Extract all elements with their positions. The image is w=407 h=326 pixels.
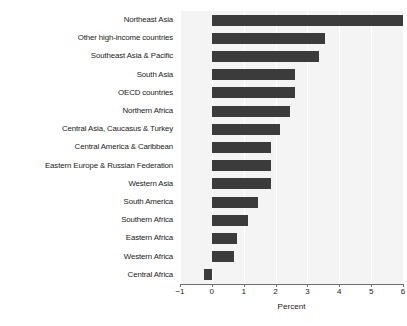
x-axis-tick-label: −1 (170, 288, 190, 296)
bar (212, 33, 325, 44)
x-axis-tick-label: 2 (266, 288, 286, 296)
bar-row (180, 47, 403, 65)
category-label: South America (5, 193, 177, 211)
bar (212, 87, 295, 98)
bar (212, 215, 249, 226)
category-label: Central Asia, Caucasus & Turkey (5, 120, 177, 138)
category-label: Western Africa (5, 248, 177, 266)
bar-row (180, 157, 403, 175)
bar-row (180, 29, 403, 47)
x-axis-tick-label: 1 (234, 288, 254, 296)
x-axis-tick-label: 5 (361, 288, 381, 296)
bar-row (180, 193, 403, 211)
x-axis-title: Percent (180, 303, 403, 311)
category-label: Southeast Asia & Pacific (5, 47, 177, 65)
bar-row (180, 120, 403, 138)
category-label: Northeast Asia (5, 11, 177, 29)
bar-row (180, 266, 403, 284)
x-axis-line (180, 284, 403, 285)
category-label: Eastern Africa (5, 229, 177, 247)
bar (204, 269, 212, 280)
bar-row (180, 229, 403, 247)
bar (212, 160, 271, 171)
bars-container (180, 11, 403, 284)
category-axis-labels: Northeast AsiaOther high-income countrie… (0, 11, 177, 284)
category-label: Other high-income countries (5, 29, 177, 47)
bar-chart: Northeast AsiaOther high-income countrie… (0, 0, 407, 326)
bar (212, 233, 237, 244)
plot-area (180, 11, 403, 284)
bar (212, 142, 271, 153)
bar-row (180, 138, 403, 156)
bar (212, 251, 234, 262)
bar (212, 69, 295, 80)
x-axis-tick-label: 3 (297, 288, 317, 296)
bar (212, 15, 403, 26)
x-axis-tick-label: 4 (329, 288, 349, 296)
bar (212, 51, 319, 62)
bar-row (180, 211, 403, 229)
bar (212, 106, 290, 117)
bar (212, 178, 271, 189)
bar-row (180, 84, 403, 102)
bar-row (180, 175, 403, 193)
bar-row (180, 102, 403, 120)
category-label: Northern Africa (5, 102, 177, 120)
category-label: Central America & Caribbean (5, 138, 177, 156)
bar-row (180, 248, 403, 266)
category-label: Central Africa (5, 266, 177, 284)
category-label: Southern Africa (5, 211, 177, 229)
category-label: Eastern Europe & Russian Federation (5, 157, 177, 175)
category-label: OECD countries (5, 84, 177, 102)
x-axis-tick-label: 6 (393, 288, 407, 296)
bar (212, 124, 280, 135)
bar-row (180, 11, 403, 29)
category-label: Western Asia (5, 175, 177, 193)
bar (212, 197, 258, 208)
bar-row (180, 66, 403, 84)
category-label: South Asia (5, 66, 177, 84)
x-axis-tick-label: 0 (202, 288, 222, 296)
